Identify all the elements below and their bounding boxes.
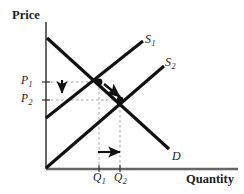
- price-tick-label-p1-base: P: [21, 74, 28, 86]
- supply-curve-1-label: S1: [145, 33, 155, 45]
- quantity-tick-label-q2-sub: 2: [123, 177, 127, 186]
- equilibrium-point-2: [117, 97, 124, 104]
- demand-curve-label: D: [172, 150, 181, 162]
- supply-curve-2-label: S2: [165, 56, 175, 68]
- x-axis-title: Quantity: [186, 173, 234, 186]
- supply-demand-figure: Price Quantity S1 S2 D P1 P2 Q1 Q2: [0, 0, 244, 194]
- annotation-arrows: [62, 80, 120, 152]
- supply-curve-1-label-sub: 1: [152, 39, 156, 48]
- quantity-tick-label-q1-sub: 1: [102, 177, 106, 186]
- price-tick-label-p2-base: P: [21, 92, 28, 104]
- equilibrium-point-1: [96, 79, 103, 86]
- supply-curve-1-label-base: S: [145, 32, 151, 46]
- demand-curve[interactable]: [47, 38, 169, 149]
- quantity-tick-label-q1-base: Q: [93, 171, 101, 183]
- price-tick-label-p1: P1: [21, 75, 32, 87]
- supply-curve-2-label-sub: 2: [172, 62, 176, 71]
- quantity-tick-label-q1: Q1: [93, 172, 105, 184]
- supply-curve-2-label-base: S: [165, 55, 171, 69]
- quantity-tick-label-q2: Q2: [114, 172, 126, 184]
- price-tick-label-p2-sub: 2: [29, 98, 33, 107]
- y-axis-title: Price: [12, 9, 40, 22]
- equilibrium-points: [96, 79, 124, 104]
- price-tick-label-p1-sub: 1: [29, 80, 33, 89]
- diagram-canvas: [0, 0, 244, 194]
- price-tick-label-p2: P2: [21, 93, 32, 105]
- quantity-tick-label-q2-base: Q: [114, 171, 122, 183]
- curves: [46, 38, 169, 168]
